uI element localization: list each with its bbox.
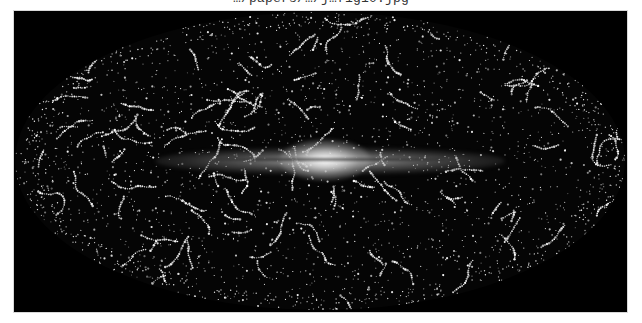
sky-map-image	[14, 11, 627, 312]
all-sky-ellipse	[15, 12, 625, 310]
dust-lane	[215, 158, 445, 161]
file-path-caption: …/papers/…/j…f1g10.jpg	[0, 0, 642, 6]
